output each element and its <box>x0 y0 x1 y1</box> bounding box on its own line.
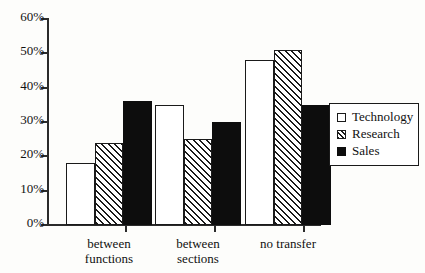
x-tick-mark <box>303 226 305 232</box>
category-label-line2: sections <box>138 251 258 266</box>
legend-item-research: Research <box>337 126 412 142</box>
x-tick-mark <box>125 226 127 232</box>
legend-item-technology: Technology <box>337 109 412 125</box>
chart-legend: Technology Research Sales <box>329 103 419 166</box>
legend-swatch-sales-icon <box>337 147 346 156</box>
y-tick-label: 30% <box>20 113 44 126</box>
bar-sales-2 <box>302 105 331 225</box>
y-tick-label: 40% <box>20 79 44 92</box>
bar-sales-1 <box>212 122 241 225</box>
legend-swatch-technology-icon <box>337 113 346 122</box>
y-tick-label: 0% <box>27 216 44 229</box>
category-label-line1: between <box>87 236 130 251</box>
y-tick-label: 60% <box>20 10 44 23</box>
legend-label-research: Research <box>352 127 400 141</box>
category-label-line1: no transfer <box>260 236 316 251</box>
y-tick-label: 20% <box>20 147 44 160</box>
bar-technology-0 <box>66 163 95 225</box>
plot-area <box>48 19 320 225</box>
y-tick-label: 10% <box>20 182 44 195</box>
category-label-2: no transfer <box>228 236 348 251</box>
legend-swatch-research-icon <box>337 130 346 139</box>
bar-technology-1 <box>155 105 184 225</box>
category-label-line1: between <box>176 236 219 251</box>
legend-label-technology: Technology <box>352 110 413 124</box>
bar-technology-2 <box>245 60 274 225</box>
bar-research-1 <box>184 139 213 225</box>
bar-chart: 60%50%40%30%20%10%0% betweenfunctionsbet… <box>0 0 425 273</box>
x-tick-mark <box>214 226 216 232</box>
legend-label-sales: Sales <box>352 144 379 158</box>
bar-sales-0 <box>123 101 152 225</box>
y-tick-label: 50% <box>20 44 44 57</box>
bar-research-2 <box>274 50 303 225</box>
legend-item-sales: Sales <box>337 143 412 159</box>
bar-research-0 <box>95 143 124 225</box>
